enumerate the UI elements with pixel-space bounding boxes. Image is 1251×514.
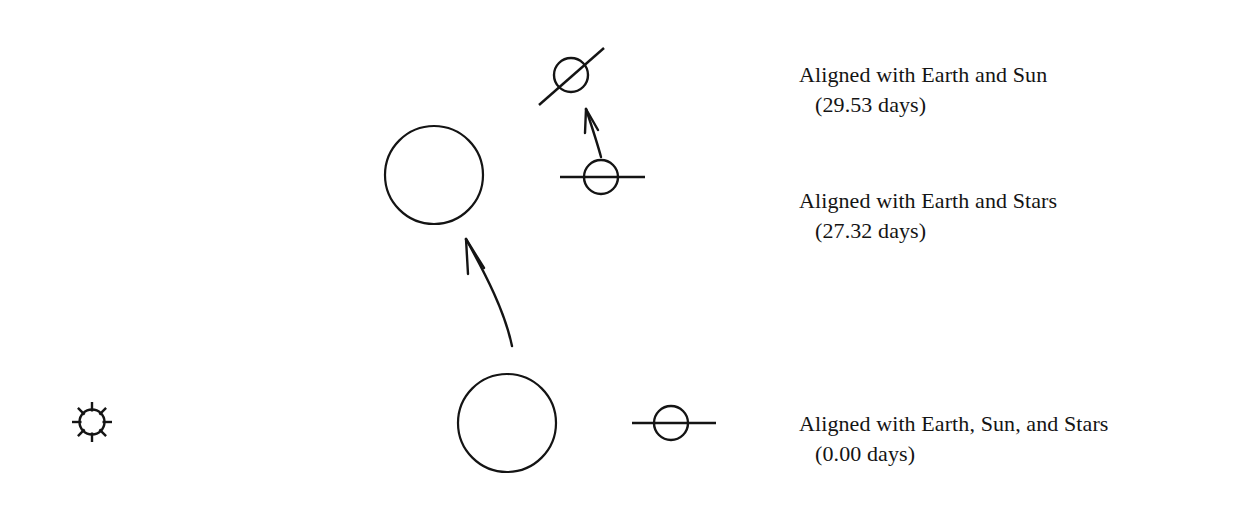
label-start-line1: Aligned with Earth, Sun, and Stars [799,409,1109,439]
moon-synodic-icon [539,48,604,105]
label-sidereal-line1: Aligned with Earth and Stars [799,186,1057,216]
earth-later-icon [385,126,483,224]
diagram-canvas: Aligned with Earth and Sun (29.53 days) … [0,0,1251,514]
label-start-line2: (0.00 days) [799,439,1109,469]
earth-start-icon [458,374,556,472]
label-synodic-line1: Aligned with Earth and Sun [799,60,1047,90]
label-aligned-earth-sun: Aligned with Earth and Sun (29.53 days) [799,60,1047,120]
label-synodic-line2: (29.53 days) [799,90,1047,120]
earth-orbit-arrow [466,239,512,346]
label-sidereal-line2: (27.32 days) [799,216,1057,246]
label-aligned-earth-sun-stars: Aligned with Earth, Sun, and Stars (0.00… [799,409,1109,469]
sun-icon [72,402,112,442]
moon-start-icon [632,406,716,440]
label-aligned-earth-stars: Aligned with Earth and Stars (27.32 days… [799,186,1057,246]
moon-sidereal-icon [560,160,645,194]
moon-orbit-arrow [585,109,601,157]
